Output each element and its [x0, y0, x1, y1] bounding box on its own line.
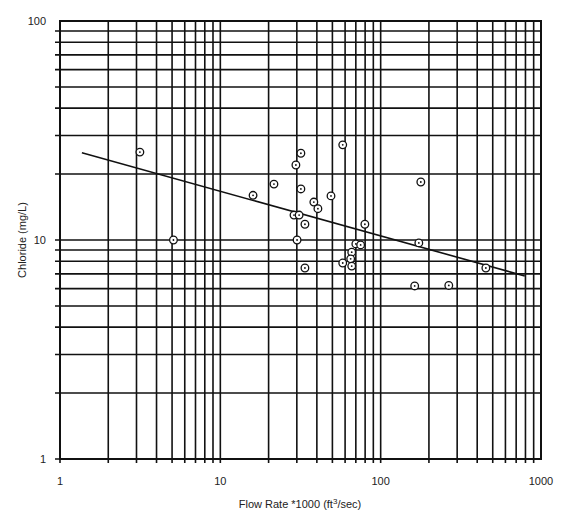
- y-tick-label: 1: [40, 453, 46, 465]
- data-point-center: [360, 244, 362, 246]
- data-point-center: [364, 223, 366, 225]
- data-point-center: [330, 195, 332, 197]
- data-point: [417, 178, 425, 186]
- data-point-center: [418, 242, 420, 244]
- data-point: [411, 282, 419, 290]
- tick-labels: 1101001000110100: [28, 15, 554, 487]
- data-point-center: [300, 188, 302, 190]
- data-point-center: [304, 267, 306, 269]
- data-point-center: [252, 194, 254, 196]
- data-point: [270, 180, 278, 188]
- data-point: [295, 211, 303, 219]
- data-point: [136, 148, 144, 156]
- data-point: [348, 262, 356, 270]
- data-point: [482, 264, 490, 272]
- data-point-center: [420, 181, 422, 183]
- data-point-center: [300, 152, 302, 154]
- data-point-center: [313, 201, 315, 203]
- data-point-center: [350, 258, 352, 260]
- x-axis-label-tail: /sec): [337, 498, 361, 510]
- x-tick-label: 1000: [529, 475, 553, 487]
- data-point-center: [298, 214, 300, 216]
- chart: 1101001000110100 Flow Rate *1000 (ft3/se…: [0, 0, 567, 520]
- data-point-center: [317, 208, 319, 210]
- y-tick-label: 10: [34, 234, 46, 246]
- data-point: [357, 241, 365, 249]
- data-point: [170, 236, 178, 244]
- data-point-center: [342, 262, 344, 264]
- data-point-center: [351, 251, 353, 253]
- data-point-center: [485, 267, 487, 269]
- data-point-center: [293, 214, 295, 216]
- data-point-center: [304, 223, 306, 225]
- data-point-center: [414, 285, 416, 287]
- data-points: [136, 141, 490, 290]
- data-point-center: [295, 164, 297, 166]
- data-point-center: [173, 239, 175, 241]
- data-point: [314, 205, 322, 213]
- x-tick-label: 1: [57, 475, 63, 487]
- data-point: [347, 255, 355, 263]
- data-point-center: [351, 265, 353, 267]
- y-tick-label: 100: [28, 15, 46, 27]
- data-point: [339, 259, 347, 267]
- data-point: [293, 236, 301, 244]
- data-point: [445, 282, 453, 290]
- data-point: [301, 220, 309, 228]
- data-point: [249, 191, 257, 199]
- data-point: [327, 192, 335, 200]
- data-point: [361, 220, 369, 228]
- x-tick-label: 10: [214, 475, 226, 487]
- data-point: [301, 264, 309, 272]
- data-point-center: [139, 151, 141, 153]
- data-point-center: [273, 183, 275, 185]
- x-axis-label: Flow Rate *1000 (ft3/sec): [239, 497, 361, 510]
- data-point: [297, 185, 305, 193]
- data-point: [339, 141, 347, 149]
- x-axis-label-main: Flow Rate *1000 (ft: [239, 498, 333, 510]
- data-point: [292, 161, 300, 169]
- y-axis-label: Chloride (mg/L): [16, 202, 28, 278]
- data-point-center: [296, 239, 298, 241]
- x-tick-label: 100: [371, 475, 389, 487]
- data-point: [415, 239, 423, 247]
- data-point-center: [448, 285, 450, 287]
- data-point-center: [342, 144, 344, 146]
- data-point: [297, 149, 305, 157]
